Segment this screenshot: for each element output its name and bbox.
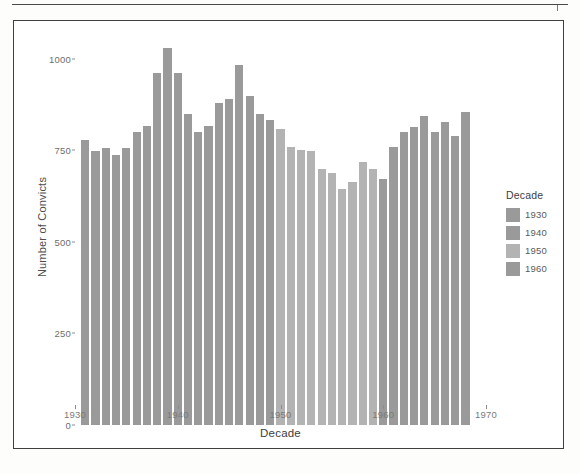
y-tick-text: 250 xyxy=(55,328,71,339)
bar-1950 xyxy=(276,129,284,425)
bar-1962 xyxy=(400,132,408,425)
legend-swatch-1930 xyxy=(506,208,520,222)
legend-swatch-1950 xyxy=(506,244,520,258)
legend-title: Decade xyxy=(506,189,562,201)
bar-1946 xyxy=(235,65,243,425)
x-tick-label-1960: 1960 xyxy=(372,409,394,420)
y-tick-text: 1000 xyxy=(49,53,71,64)
bar-1961 xyxy=(389,147,397,425)
bar-1952 xyxy=(297,150,305,425)
bar-1960 xyxy=(379,179,387,425)
bar-1956 xyxy=(338,189,346,425)
legend-item-1960[interactable]: 1960 xyxy=(506,260,562,277)
bar-1964 xyxy=(420,116,428,425)
x-tick-label-1950: 1950 xyxy=(270,409,292,420)
legend-item-1950[interactable]: 1950 xyxy=(506,242,562,259)
bar-1948 xyxy=(256,114,264,425)
bar-1949 xyxy=(266,120,274,425)
bar-1955 xyxy=(328,173,336,425)
legend-item-1940[interactable]: 1940 xyxy=(506,224,562,241)
bar-1947 xyxy=(246,96,254,425)
legend-swatch-1940 xyxy=(506,226,520,240)
bar-1966 xyxy=(441,122,449,425)
bar-1934 xyxy=(112,155,120,425)
bar-1963 xyxy=(410,127,418,425)
bar-1944 xyxy=(215,103,223,425)
bar-1941 xyxy=(184,114,192,425)
page-top-rule xyxy=(12,4,568,5)
x-tick-mark-1950 xyxy=(281,405,282,409)
x-tick-label-1970: 1970 xyxy=(475,409,497,420)
x-tick-mark-1930 xyxy=(75,405,76,409)
bar-1951 xyxy=(287,147,295,425)
legend-label-1930: 1930 xyxy=(525,209,547,220)
y-tick-text: 750 xyxy=(55,145,71,156)
legend-label-1960: 1960 xyxy=(525,263,547,274)
plot-panel xyxy=(75,37,486,425)
bar-1940 xyxy=(174,73,182,425)
x-tick-mark-1940 xyxy=(178,405,179,409)
y-axis-title: Number of Convicts xyxy=(36,33,48,421)
bar-1958 xyxy=(359,162,367,425)
bar-1954 xyxy=(318,169,326,425)
x-tick-mark-1970 xyxy=(486,405,487,409)
y-tick-text: 500 xyxy=(55,236,71,247)
bar-1957 xyxy=(348,182,356,425)
bar-1932 xyxy=(91,151,99,425)
page-top-rule-tick xyxy=(557,5,558,11)
bar-1938 xyxy=(153,73,161,425)
legend-item-1930[interactable]: 1930 xyxy=(506,206,562,223)
bar-1939 xyxy=(163,48,171,425)
legend-label-1940: 1940 xyxy=(525,227,547,238)
bar-1933 xyxy=(102,148,110,425)
bar-1931 xyxy=(81,140,89,425)
bar-1959 xyxy=(369,169,377,425)
legend-swatch-1960 xyxy=(506,262,520,276)
y-tick-text: 0 xyxy=(66,420,71,431)
legend: Decade 1930194019501960 xyxy=(506,189,562,278)
x-tick-mark-1960 xyxy=(383,405,384,409)
x-axis-title: Decade xyxy=(75,427,486,439)
bar-1942 xyxy=(194,132,202,425)
bar-1936 xyxy=(133,132,141,425)
bar-1943 xyxy=(204,126,212,425)
legend-items: 1930194019501960 xyxy=(506,206,562,277)
bar-1968 xyxy=(461,112,469,425)
scanned-page: 02505007501000 Number of Convicts 193019… xyxy=(0,0,580,474)
bar-1967 xyxy=(451,136,459,425)
bar-1953 xyxy=(307,151,315,425)
figure-frame: 02505007501000 Number of Convicts 193019… xyxy=(13,20,564,449)
bar-1937 xyxy=(143,126,151,425)
legend-label-1950: 1950 xyxy=(525,245,547,256)
bar-1935 xyxy=(122,148,130,425)
x-tick-label-1940: 1940 xyxy=(167,409,189,420)
x-tick-label-1930: 1930 xyxy=(64,409,86,420)
bar-1945 xyxy=(225,99,233,425)
bar-1965 xyxy=(431,132,439,425)
bar-chart: 02505007501000 Number of Convicts 193019… xyxy=(14,21,565,450)
